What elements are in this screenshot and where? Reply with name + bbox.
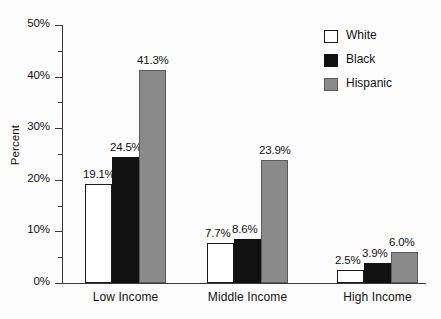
legend-label: White xyxy=(346,28,377,42)
x-axis-label-middle-income: Middle Income xyxy=(188,290,308,304)
bar-value-label: 41.3% xyxy=(137,54,169,66)
bar-value-label: 3.9% xyxy=(362,247,387,259)
bar-value-label: 19.1% xyxy=(83,168,115,180)
bar-black-low-income xyxy=(112,157,139,283)
bar-chart: Percent 50%40%30%20%10%0% 19.1%24.5%41.3… xyxy=(0,0,441,319)
bar-hispanic-middle-income xyxy=(261,160,288,283)
bar-value-label: 8.6% xyxy=(232,223,257,235)
x-axis-label-low-income: Low Income xyxy=(66,290,186,304)
bar-white-middle-income xyxy=(207,243,234,283)
legend-swatch-icon xyxy=(324,54,338,67)
bar-value-label: 7.7% xyxy=(205,227,230,239)
legend-label: Hispanic xyxy=(346,76,392,90)
bar-black-middle-income xyxy=(234,239,261,283)
bar-hispanic-high-income xyxy=(391,252,418,283)
plot-area: 19.1%24.5%41.3%7.7%8.6%23.9%2.5%3.9%6.0% xyxy=(0,0,441,319)
bar-value-label: 23.9% xyxy=(259,144,291,156)
legend-swatch-icon xyxy=(324,78,338,91)
legend-swatch-icon xyxy=(324,30,338,43)
bar-value-label: 2.5% xyxy=(335,254,360,266)
x-axis-label-high-income: High Income xyxy=(318,290,438,304)
bar-value-label: 6.0% xyxy=(389,236,414,248)
bar-black-high-income xyxy=(364,263,391,283)
bar-white-low-income xyxy=(85,184,112,283)
bar-hispanic-low-income xyxy=(139,70,166,283)
bar-value-label: 24.5% xyxy=(110,141,142,153)
legend-label: Black xyxy=(346,52,375,66)
bar-white-high-income xyxy=(337,270,364,283)
